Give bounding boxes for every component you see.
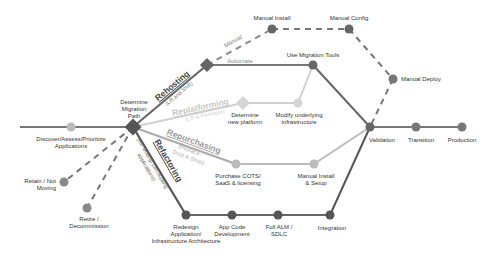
manual-config-label: Manual Config — [330, 15, 369, 21]
transition-label: Transition — [408, 137, 434, 143]
full-alm-label: Full ALM / — [266, 224, 293, 230]
production-label: Production — [448, 137, 477, 143]
redesign-label-3: Infrastructure Architecture — [152, 238, 221, 244]
replatforming-diamond — [236, 96, 250, 110]
use-migration-tools-label: Use Migration Tools — [287, 52, 340, 58]
determine-platform-label-2: new platform — [228, 119, 262, 125]
retire-label: Retire / — [79, 216, 99, 222]
modify-tools-line — [298, 65, 313, 103]
retain-label-2: Moving — [37, 185, 56, 191]
redesign-label: Redesign — [173, 224, 198, 230]
manual-install-setup-label: Manual Install — [297, 173, 334, 179]
integration-node — [326, 211, 335, 220]
redesign-node — [182, 211, 191, 220]
production-node — [458, 123, 467, 132]
modify-infra-label-2: infrastructure — [281, 119, 317, 125]
transition-node — [412, 123, 421, 132]
manual-config-deploy-line — [349, 29, 393, 79]
manual-config-node — [345, 25, 354, 34]
purchase-cots-label-2: SaaS & licensing — [215, 180, 260, 186]
retain-label: Retain / Not — [24, 178, 56, 184]
use-migration-tools-node — [309, 61, 318, 70]
app-code-label: App Code — [219, 224, 246, 230]
retain-node — [60, 178, 69, 187]
integration-label: Integration — [318, 225, 346, 231]
discover-label: Discover/Assess/Prioritize — [36, 136, 106, 142]
purchase-cots-label: Purchase COTS/ — [215, 173, 261, 179]
retire-label-2: Decommission — [69, 223, 108, 229]
manual-deploy-validation-line — [370, 79, 393, 127]
manual-install-setup-label-2: & Setup — [305, 180, 327, 186]
manual-deploy-node — [389, 75, 398, 84]
discover-node — [67, 123, 76, 132]
determine-platform-label: Determine — [231, 112, 259, 118]
determine-label-3: Path — [128, 113, 140, 119]
modify-infrastructure-node — [294, 99, 303, 108]
validation-node — [366, 123, 375, 132]
purchase-cots-node — [232, 160, 241, 169]
full-alm-node — [274, 211, 283, 220]
modify-infra-label: Modify underlying — [275, 112, 322, 118]
determine-label-2: Migration — [122, 106, 147, 112]
determine-label: Determine — [120, 99, 148, 105]
validation-label: Validation — [369, 137, 395, 143]
manual-deploy-label: Manual Deploy — [401, 76, 441, 82]
manual-install-setup-node — [310, 160, 319, 169]
retire-node — [83, 204, 92, 213]
full-alm-label-2: SDLC — [271, 231, 288, 237]
app-code-node — [228, 211, 237, 220]
migration-diagram: Discover/Assess/Prioritize Applications … — [0, 0, 489, 256]
manual-install-node — [268, 25, 277, 34]
discover-label-2: Applications — [55, 143, 87, 149]
manual-install-label: Manual Install — [253, 15, 290, 21]
automate-label: Automate — [227, 58, 253, 64]
redesign-label-2: Application/ — [170, 231, 201, 237]
app-code-label-2: Development — [214, 231, 250, 237]
